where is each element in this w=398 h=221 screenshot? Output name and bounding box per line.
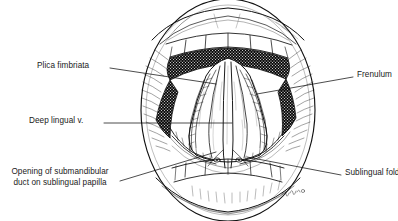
label-frenulum: Frenulum [357,70,392,81]
tongue-ventral-surface [189,58,267,168]
lower-lip [156,178,300,214]
lower-teeth [172,159,284,182]
label-deep-lingual-vein: Deep lingual v. [29,116,83,127]
label-sublingual-fold: Sublingual fold [345,168,398,179]
label-line-1: Opening of submandibular [11,167,108,176]
label-submandibular-duct-opening: Opening of submandibularduct on sublingu… [4,167,116,188]
label-line-2: duct on sublingual papilla [13,178,106,187]
label-plica-fimbriata: Plica fimbriata [37,61,89,72]
leader-plica-fimbriata [110,68,216,84]
figure-root: Plica fimbriata Deep lingual v. Opening … [0,0,398,221]
leader-frenulum [257,77,353,94]
illustration-ink [104,0,353,221]
